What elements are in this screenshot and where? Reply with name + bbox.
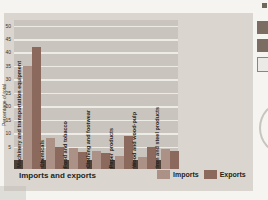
legend-item-exports: Exports bbox=[204, 170, 246, 179]
cutoff-swatch-dark-2 bbox=[257, 39, 268, 52]
y-tick-label-10: 10 bbox=[0, 130, 11, 136]
scan-shadow bbox=[0, 186, 26, 200]
y-tick-label-40: 40 bbox=[0, 49, 11, 55]
category-label-machinery-and-transportation-equipment: Machinery and transportation equipment bbox=[16, 61, 23, 168]
cutoff-circle-artifact bbox=[259, 102, 268, 154]
imports-bar-iron-and-steel-products bbox=[161, 149, 170, 169]
legend-label-exports: Exports bbox=[220, 171, 246, 178]
page-corner-mark bbox=[262, 3, 267, 8]
imports-bar-machinery-and-transportation-equipment bbox=[23, 66, 32, 169]
imports-bar-food-and-tobacco bbox=[69, 148, 78, 169]
exports-bar-iron-and-steel-products bbox=[170, 151, 179, 169]
category-label-chemicals: Chemicals bbox=[39, 140, 46, 168]
category-label-paper-products: Paper products bbox=[108, 128, 115, 168]
category-label-food-and-tobacco: Food and tobacco bbox=[62, 121, 69, 168]
chart-legend: ImportsExports bbox=[157, 170, 246, 179]
imports-bar-chemicals bbox=[46, 138, 55, 169]
category-label-wood-and-wood-pulp: Wood and wood-pulp bbox=[131, 112, 138, 168]
y-tick-label-50: 50 bbox=[0, 23, 11, 29]
gridline-45 bbox=[14, 39, 178, 41]
imports-bar-paper-products bbox=[115, 156, 124, 169]
legend-swatch-exports bbox=[204, 170, 217, 179]
imports-bar-clothing-and-footwear bbox=[92, 151, 101, 169]
category-label-iron-and-steel-products: Iron and steel products bbox=[154, 107, 161, 168]
category-label-clothing-and-footwear: Clothing and footwear bbox=[85, 110, 92, 168]
y-tick-label-5: 5 bbox=[0, 144, 11, 150]
gridline-50 bbox=[14, 26, 178, 28]
legend-item-imports: Imports bbox=[157, 170, 199, 179]
imports-bar-wood-and-wood-pulp bbox=[138, 157, 147, 169]
cutoff-swatch-dark-1 bbox=[257, 21, 268, 34]
figure-title: Imports and exports bbox=[19, 171, 96, 180]
legend-swatch-imports bbox=[157, 170, 170, 179]
y-axis-title: Percentage of total bbox=[1, 56, 7, 126]
cutoff-swatch-light bbox=[257, 57, 268, 72]
legend-label-imports: Imports bbox=[173, 171, 199, 178]
y-tick-label-45: 45 bbox=[0, 36, 11, 42]
